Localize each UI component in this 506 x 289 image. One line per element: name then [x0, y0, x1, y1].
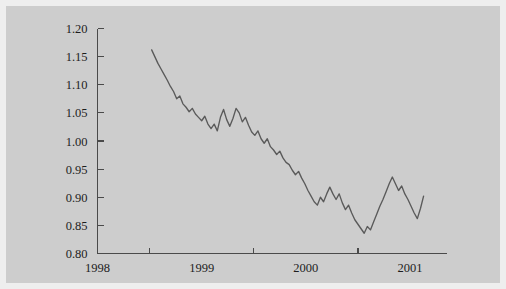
axis-lines — [98, 29, 447, 254]
y-tick-label: 1.20 — [66, 22, 88, 36]
x-tick-label: 1998 — [85, 261, 110, 275]
y-tick-label: 1.15 — [66, 50, 88, 64]
y-tick-label: 0.80 — [66, 247, 88, 261]
y-tick-label: 1.00 — [66, 135, 88, 149]
y-tick-label: 0.85 — [66, 219, 88, 233]
x-tick-label: 1999 — [189, 261, 214, 275]
x-axis-ticks: 1998199920002001 — [85, 248, 423, 275]
y-tick-label: 0.90 — [66, 191, 88, 205]
y-tick-label: 0.95 — [66, 163, 88, 177]
y-tick-label: 1.05 — [66, 106, 88, 120]
y-tick-label: 1.10 — [66, 78, 88, 92]
line-chart: 0.800.850.900.951.001.051.101.151.20 199… — [0, 0, 506, 289]
x-tick-label: 2000 — [293, 261, 318, 275]
data-series-line — [152, 50, 424, 233]
figure-container: 0.800.850.900.951.001.051.101.151.20 199… — [0, 0, 506, 289]
x-tick-label: 2001 — [398, 261, 423, 275]
